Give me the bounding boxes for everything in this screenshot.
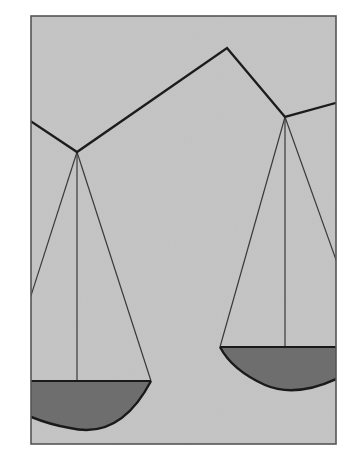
balance-scale-illustration <box>0 0 350 459</box>
